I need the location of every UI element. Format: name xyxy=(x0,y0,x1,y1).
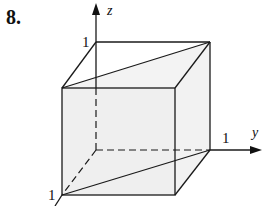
y-axis-label: y xyxy=(250,125,259,140)
z-tick-label: 1 xyxy=(82,34,90,50)
z-axis-arrow-icon xyxy=(92,3,100,15)
y-tick-label: 1 xyxy=(222,130,230,146)
front-face xyxy=(62,88,175,195)
z-axis-label: z xyxy=(106,3,113,18)
y-axis-arrow-icon xyxy=(250,146,262,154)
problem-number: 8. xyxy=(6,6,21,28)
x-tick-label: 1 xyxy=(48,187,56,203)
cube-diagram: 8. z 1 1 y 1 xyxy=(0,0,262,206)
